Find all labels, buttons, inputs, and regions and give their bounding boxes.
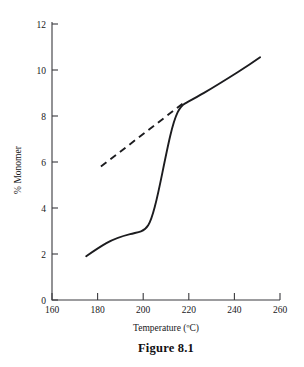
y-tick-label: 8 bbox=[41, 112, 46, 122]
y-tick-label: 2 bbox=[41, 250, 46, 260]
y-tick-label: 0 bbox=[41, 296, 46, 306]
x-tick-label: 240 bbox=[227, 305, 242, 315]
figure-page: 0 2 4 6 8 10 12 160 180 200 220 240 260 bbox=[0, 0, 304, 367]
y-axis-title: % Monomer bbox=[13, 145, 23, 194]
y-tick-label: 12 bbox=[37, 20, 47, 30]
x-tick-label: 200 bbox=[136, 305, 151, 315]
x-tick-label: 180 bbox=[90, 305, 105, 315]
x-tick-label: 220 bbox=[182, 305, 197, 315]
y-tick-label: 10 bbox=[37, 66, 47, 76]
figure-caption: Figure 8.1 bbox=[138, 341, 194, 355]
y-tick-label: 4 bbox=[41, 204, 46, 214]
x-tick-label: 260 bbox=[273, 305, 288, 315]
y-tick-label: 6 bbox=[41, 158, 46, 168]
x-tick-label: 160 bbox=[45, 305, 60, 315]
x-axis-title: Temperature (ºC) bbox=[133, 323, 199, 334]
monomer-temperature-chart: 0 2 4 6 8 10 12 160 180 200 220 240 260 bbox=[0, 0, 304, 367]
